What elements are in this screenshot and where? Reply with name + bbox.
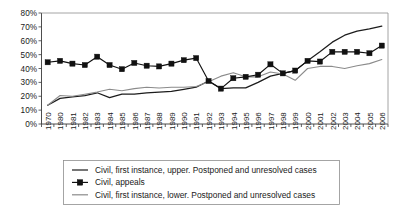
- x-tick-label: 1980: [56, 112, 65, 130]
- data-point-marker: [144, 63, 149, 68]
- y-tick-label: 50%: [21, 51, 37, 60]
- y-tick-label: 80%: [21, 9, 37, 18]
- x-tick-label: 2005: [366, 112, 375, 130]
- data-point-marker: [379, 43, 384, 48]
- y-tick-label: 20%: [21, 92, 37, 101]
- legend-item-label: Civil, appeals: [95, 177, 145, 187]
- data-point-marker: [293, 68, 298, 73]
- data-point-marker: [231, 76, 236, 81]
- x-tick-label: 1992: [205, 112, 214, 130]
- x-tick-label: 1986: [131, 112, 140, 130]
- y-tick-label: 0%: [25, 120, 37, 129]
- data-point-marker: [243, 74, 248, 79]
- legend-item-label: Civil, first instance, lower. Postponed …: [95, 190, 315, 200]
- y-tick-label: 70%: [21, 23, 37, 32]
- data-point-marker: [354, 49, 359, 54]
- legend-item-label: Civil, first instance, upper. Postponed …: [95, 165, 317, 175]
- chart-figure: 0%10%20%30%40%50%60%70%80% 1970198019811…: [0, 0, 402, 209]
- plot-frame: [42, 13, 389, 124]
- x-tick-label: 1994: [230, 112, 239, 130]
- series-line: [48, 26, 382, 105]
- x-tick-label: 2000: [304, 112, 313, 130]
- x-tick-label: 2006: [378, 112, 387, 130]
- data-point-marker: [45, 60, 50, 65]
- x-tick-label: 1993: [217, 112, 226, 130]
- y-tick-label: 10%: [21, 106, 37, 115]
- data-point-marker: [194, 55, 199, 60]
- x-tick-label: 1983: [93, 112, 102, 130]
- data-point-marker: [305, 58, 310, 63]
- x-tick-label: 2002: [329, 112, 338, 130]
- x-tick-label: 1988: [155, 112, 164, 130]
- x-tick-label: 1998: [279, 112, 288, 130]
- y-axis-tick-labels: 0%10%20%30%40%50%60%70%80%: [21, 9, 37, 129]
- x-tick-label: 2003: [341, 112, 350, 130]
- data-point-marker: [280, 71, 285, 76]
- data-point-marker: [156, 64, 161, 69]
- data-point-marker: [181, 58, 186, 63]
- data-point-marker: [169, 61, 174, 66]
- series-line: [48, 59, 382, 105]
- data-point-marker: [342, 49, 347, 54]
- data-point-marker: [119, 67, 124, 72]
- y-tick-label: 60%: [21, 37, 37, 46]
- line-chart: 0%10%20%30%40%50%60%70%80% 1970198019811…: [0, 0, 402, 209]
- x-tick-label: 2001: [316, 112, 325, 130]
- data-series-group: [45, 26, 384, 105]
- x-tick-label: 1990: [180, 112, 189, 130]
- x-tick-label: 1981: [69, 112, 78, 130]
- x-tick-label: 1996: [254, 112, 263, 130]
- x-tick-label: 1985: [118, 112, 127, 130]
- x-tick-label: 1987: [143, 112, 152, 130]
- data-point-marker: [218, 86, 223, 91]
- data-point-marker: [367, 51, 372, 56]
- data-point-marker: [82, 62, 87, 67]
- data-point-marker: [330, 49, 335, 54]
- data-point-marker: [206, 78, 211, 83]
- x-tick-label: 1999: [291, 112, 300, 130]
- x-tick-label: 2004: [353, 112, 362, 130]
- data-point-marker: [57, 58, 62, 63]
- data-point-marker: [268, 62, 273, 67]
- data-point-marker: [255, 72, 260, 77]
- chart-legend: Civil, first instance, upper. Postponed …: [64, 161, 340, 205]
- data-point-marker: [317, 59, 322, 64]
- x-tick-label: 1970: [44, 112, 53, 130]
- x-tick-label: 1991: [192, 112, 201, 130]
- x-tick-label: 1989: [168, 112, 177, 130]
- data-point-marker: [107, 62, 112, 67]
- data-point-marker: [132, 60, 137, 65]
- x-tick-label: 1997: [267, 112, 276, 130]
- legend-marker-swatch: [77, 180, 83, 186]
- y-tick-label: 30%: [21, 78, 37, 87]
- x-tick-label: 1984: [106, 112, 115, 130]
- y-tick-label: 40%: [21, 65, 37, 74]
- data-point-marker: [70, 61, 75, 66]
- data-point-marker: [95, 54, 100, 59]
- x-axis-tick-labels: 1970198019811982198319841985198619871988…: [44, 112, 387, 130]
- x-tick-label: 1995: [242, 112, 251, 130]
- x-tick-label: 1982: [81, 112, 90, 130]
